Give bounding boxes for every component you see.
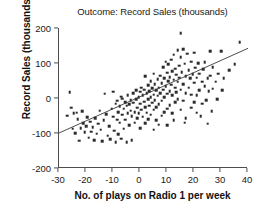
data-point [158,103,161,106]
data-point [98,109,101,112]
data-point [179,109,182,112]
data-point [152,72,155,75]
data-point [170,83,173,86]
data-point [170,58,173,61]
x-tick-mark [192,168,193,172]
data-point [201,81,204,84]
data-point [129,109,132,112]
data-point [83,131,86,134]
data-point [147,118,150,121]
data-point [179,56,182,59]
data-point [91,126,94,129]
data-point [66,114,69,117]
data-point [179,32,182,35]
data-point [206,123,209,126]
data-point [112,90,115,93]
data-point [96,132,99,135]
x-tick-label: -30 [51,174,65,185]
data-point [193,81,196,84]
data-point [168,76,171,79]
data-point [71,128,74,131]
data-point [166,124,169,127]
data-point [194,67,197,70]
data-point [155,106,158,109]
data-point [143,100,146,103]
data-point [205,99,208,102]
data-point [123,107,126,110]
data-point [189,77,192,80]
data-point [148,90,151,93]
data-point [102,119,105,122]
data-point [163,77,166,80]
data-point [137,112,140,115]
scatter-plot-figure: Outcome: Record Sales (thousands) Record… [0,0,262,211]
data-point [104,93,107,96]
data-point [160,114,163,117]
data-point [163,111,166,114]
data-point [193,51,196,54]
data-point [195,76,198,79]
data-point [113,130,116,133]
data-point [145,111,148,114]
data-point [152,128,155,131]
data-point [85,125,88,128]
data-point [228,69,231,72]
data-point [106,135,109,138]
data-point [164,85,167,88]
data-point [128,103,131,106]
data-point [214,81,217,84]
data-point [109,138,112,141]
data-point [101,140,104,143]
data-point [156,78,159,81]
data-point [87,136,90,139]
data-point [172,119,175,122]
data-point [171,94,174,97]
data-point [182,100,185,103]
data-point [156,95,159,98]
data-point [94,117,97,120]
data-point [139,90,142,93]
data-point [168,104,171,107]
data-point [183,62,186,65]
data-point [116,100,119,103]
data-point [190,60,193,63]
data-point [183,121,186,124]
data-point [167,80,170,83]
data-point [143,88,146,91]
x-tick-mark [138,168,139,172]
x-tick-label: -10 [105,174,119,185]
data-point [159,74,162,77]
x-tick-mark [246,168,247,172]
data-point [132,92,135,95]
data-point [187,69,190,72]
data-point [199,115,202,118]
data-point [139,102,142,105]
data-point [150,114,153,117]
data-point [144,122,147,125]
data-point [233,63,236,66]
data-point [167,63,170,66]
data-point [112,116,115,119]
data-point [140,109,143,112]
data-point [172,79,175,82]
data-point [121,114,124,117]
data-point [77,118,80,121]
data-point [135,89,138,92]
data-point [168,90,171,93]
data-point [151,87,154,90]
data-point [162,66,165,69]
data-point [159,92,162,95]
data-point [144,106,147,109]
data-point [127,94,130,97]
data-point [177,49,180,52]
data-point [175,91,178,94]
data-point [182,48,185,51]
data-point [221,89,224,92]
data-point [174,86,177,89]
data-point [195,111,198,114]
data-point [131,139,134,142]
data-point [118,121,121,124]
data-point [117,111,120,114]
data-point [120,137,123,140]
x-tick-label: 10 [161,174,172,185]
